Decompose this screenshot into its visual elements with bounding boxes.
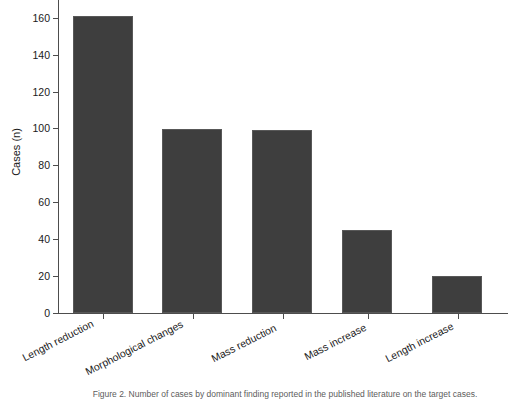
- y-tick-label-120: 120: [4, 87, 50, 97]
- y-tick-60: [53, 202, 58, 203]
- x-tick-4: [458, 314, 459, 319]
- y-tick-label-80: 80: [4, 160, 50, 170]
- y-tick-40: [53, 239, 58, 240]
- y-tick-0: [53, 313, 58, 314]
- y-tick-label-60: 60: [4, 197, 50, 207]
- figure-caption: Figure 2. Number of cases by dominant fi…: [70, 389, 500, 399]
- x-tick-1: [193, 314, 194, 319]
- x-tick-3: [368, 314, 369, 319]
- y-tick-label-160: 160: [4, 13, 50, 23]
- x-tick-0: [103, 314, 104, 319]
- y-tick-label-0: 0: [4, 308, 50, 318]
- x-label-length-reduction: Length reduction: [20, 317, 95, 363]
- y-tick-label-20: 20: [4, 271, 50, 281]
- y-axis-line: [58, 0, 59, 314]
- x-label-length-increase: Length increase: [383, 320, 455, 365]
- y-tick-label-140: 140: [4, 50, 50, 60]
- y-tick-label-100: 100: [4, 123, 50, 133]
- bar-morphological-changes[interactable]: [162, 129, 222, 313]
- y-tick-140: [53, 55, 58, 56]
- y-tick-100: [53, 128, 58, 129]
- x-label-mass-reduction: Mass reduction: [209, 321, 278, 364]
- y-tick-80: [53, 165, 58, 166]
- y-tick-20: [53, 276, 58, 277]
- y-tick-120: [53, 92, 58, 93]
- x-label-morphological-changes: Morphological changes: [83, 318, 185, 378]
- y-tick-label-40: 40: [4, 234, 50, 244]
- y-tick-160: [53, 18, 58, 19]
- bar-length-reduction[interactable]: [73, 16, 133, 313]
- bar-mass-increase[interactable]: [342, 230, 392, 313]
- x-label-mass-increase: Mass increase: [302, 321, 368, 362]
- bar-mass-reduction[interactable]: [252, 130, 312, 313]
- bar-length-increase[interactable]: [432, 276, 482, 313]
- x-tick-2: [283, 314, 284, 319]
